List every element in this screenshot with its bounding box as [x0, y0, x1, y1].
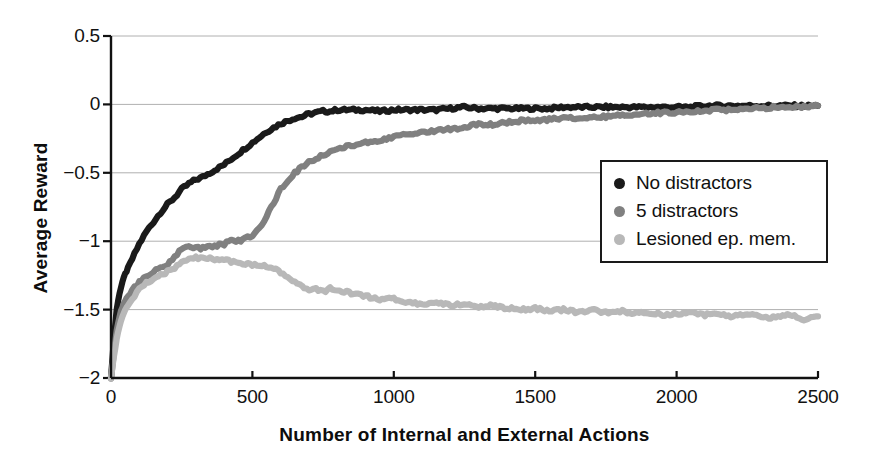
chart-legend: No distractors5 distractorsLesioned ep. …	[600, 160, 828, 263]
series-line-3	[111, 257, 818, 379]
legend-item-label: Lesioned ep. mem.	[636, 228, 796, 250]
chart-figure: 0.50−0.5−1−1.5−2 05001000150020002500 Av…	[0, 0, 875, 463]
x-tick-label: 2500	[797, 386, 838, 408]
y-tick-label: −2	[20, 367, 100, 389]
legend-marker-dot-icon	[614, 206, 625, 217]
legend-item-3[interactable]: Lesioned ep. mem.	[614, 225, 816, 253]
x-tick-label: 1000	[373, 386, 414, 408]
legend-item-2[interactable]: 5 distractors	[614, 197, 816, 225]
x-tick-label: 0	[106, 386, 116, 408]
legend-item-label: No distractors	[636, 172, 752, 194]
legend-marker-dot-icon	[614, 178, 625, 189]
x-tick-label: 1500	[514, 386, 555, 408]
x-axis-title: Number of Internal and External Actions	[111, 424, 818, 446]
y-tick-label: 0.5	[20, 25, 100, 47]
legend-item-label: 5 distractors	[636, 200, 738, 222]
x-tick-label: 2000	[656, 386, 697, 408]
y-axis-title: Average Reward	[30, 93, 52, 343]
legend-marker-dot-icon	[614, 234, 625, 245]
x-tick-label: 500	[237, 386, 268, 408]
legend-item-1[interactable]: No distractors	[614, 169, 816, 197]
